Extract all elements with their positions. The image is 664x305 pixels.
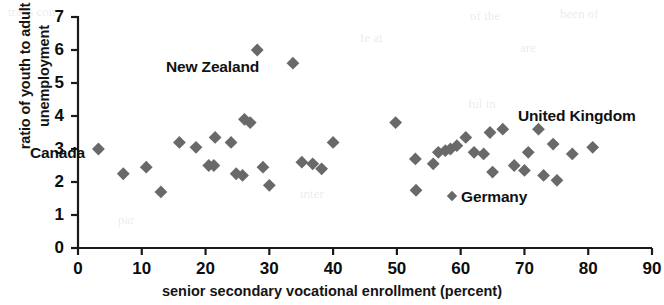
data-point-marker bbox=[496, 123, 509, 136]
y-axis-tick-label: 1 bbox=[42, 206, 64, 223]
data-point-marker bbox=[586, 141, 599, 154]
annotation-canada: Canada bbox=[30, 144, 85, 162]
y-axis-tick-label: 5 bbox=[42, 74, 64, 91]
y-axis-tick-label: 7 bbox=[42, 8, 64, 25]
data-point-marker bbox=[140, 161, 153, 174]
x-axis-title: senior secondary vocational enrollment (… bbox=[0, 283, 664, 299]
data-point-marker bbox=[459, 131, 472, 144]
data-point-marker bbox=[117, 167, 130, 180]
annotation-united-kingdom: United Kingdom bbox=[518, 107, 636, 125]
data-point-marker bbox=[263, 179, 276, 192]
x-axis-tick-label: 60 bbox=[441, 260, 481, 277]
data-point-marker bbox=[410, 184, 423, 197]
data-point-marker bbox=[155, 186, 168, 199]
data-point-marker bbox=[522, 146, 535, 159]
y-axis-tick-label: 0 bbox=[42, 239, 64, 256]
data-point-marker bbox=[486, 166, 499, 179]
x-axis-tick-label: 40 bbox=[313, 260, 353, 277]
data-point-marker bbox=[225, 136, 238, 149]
x-axis-tick-label: 20 bbox=[186, 260, 226, 277]
data-point-marker bbox=[92, 143, 105, 156]
data-point-marker bbox=[173, 136, 186, 149]
y-axis-tick-label: 2 bbox=[42, 173, 64, 190]
y-axis-tick-label: 6 bbox=[42, 41, 64, 58]
annotation-new-zealand: New Zealand bbox=[166, 58, 259, 76]
x-axis-tick-label: 90 bbox=[632, 260, 664, 277]
x-axis-tick-label: 10 bbox=[122, 260, 162, 277]
data-point-marker bbox=[257, 161, 270, 174]
data-point-marker bbox=[547, 138, 560, 151]
data-point-marker bbox=[209, 131, 222, 144]
y-axis-tick-label: 4 bbox=[42, 107, 64, 124]
data-point-marker bbox=[566, 148, 579, 161]
data-point-marker bbox=[389, 116, 402, 129]
data-point-marker bbox=[427, 157, 440, 170]
x-axis-tick-label: 80 bbox=[568, 260, 608, 277]
data-point-marker bbox=[251, 44, 264, 57]
data-point-marker bbox=[190, 141, 203, 154]
data-point-marker bbox=[537, 169, 550, 182]
data-point-marker bbox=[551, 174, 564, 187]
x-axis-tick-label: 50 bbox=[377, 260, 417, 277]
scatter-chart: trans conof thebeen offe atareful inpari… bbox=[0, 0, 664, 305]
data-point-marker bbox=[295, 156, 308, 169]
x-axis-tick-label: 70 bbox=[504, 260, 544, 277]
x-axis-tick-label: 30 bbox=[249, 260, 289, 277]
annotation-germany: Germany bbox=[461, 188, 527, 206]
data-point-marker bbox=[468, 146, 481, 159]
data-point-marker bbox=[484, 126, 497, 139]
data-point-marker bbox=[409, 153, 422, 166]
germany-callout-marker bbox=[447, 191, 457, 201]
data-point-marker bbox=[327, 136, 340, 149]
x-axis-tick-label: 0 bbox=[58, 260, 98, 277]
data-point-marker bbox=[287, 57, 300, 70]
data-point-marker bbox=[477, 148, 490, 161]
